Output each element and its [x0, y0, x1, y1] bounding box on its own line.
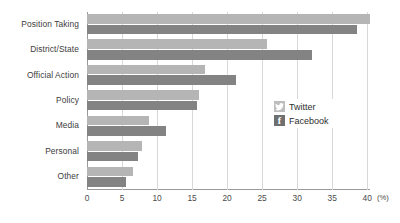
grouped-bar-chart: Position TakingDistrict/StateOfficial Ac… — [0, 0, 400, 223]
bar-facebook — [87, 75, 236, 85]
chart-legend: Twitter f Facebook — [272, 99, 333, 128]
tick-label-15: 15 — [187, 193, 196, 203]
facebook-f-icon: f — [274, 115, 285, 126]
category-label: Position Taking — [0, 19, 79, 29]
bar-twitter — [87, 141, 142, 151]
axis-unit-label: (%) — [377, 193, 389, 202]
bar-group — [87, 12, 370, 37]
category-label: Personal — [0, 146, 79, 156]
category-label: District/State — [0, 44, 79, 54]
category-label: Media — [0, 120, 79, 130]
tick-label-40: 40 — [363, 193, 372, 203]
bar-group — [87, 37, 370, 62]
legend-item-facebook: f Facebook — [274, 115, 329, 126]
bar-facebook — [87, 152, 138, 162]
bar-facebook — [87, 50, 312, 60]
bar-group — [87, 63, 370, 88]
tick-label-20: 20 — [222, 193, 231, 203]
bar-facebook — [87, 101, 197, 111]
tick-label-0: 0 — [85, 193, 90, 203]
tick-label-5: 5 — [120, 193, 125, 203]
category-axis-labels: Position TakingDistrict/StateOfficial Ac… — [0, 12, 83, 190]
bar-facebook — [87, 25, 357, 35]
category-label: Official Action — [0, 70, 79, 80]
bar-twitter — [87, 14, 370, 24]
legend-item-twitter: Twitter — [274, 101, 329, 112]
bar-twitter — [87, 167, 133, 177]
bar-twitter — [87, 65, 205, 75]
tick-label-25: 25 — [257, 193, 266, 203]
bar-twitter — [87, 116, 149, 126]
tick-label-30: 30 — [292, 193, 301, 203]
bar-facebook — [87, 126, 166, 136]
bar-twitter — [87, 39, 267, 49]
bar-facebook — [87, 177, 126, 187]
bar-group — [87, 165, 370, 190]
legend-label-facebook: Facebook — [289, 116, 329, 126]
bar-twitter — [87, 90, 199, 100]
legend-label-twitter: Twitter — [289, 102, 316, 112]
tick-label-35: 35 — [328, 193, 337, 203]
category-label: Policy — [0, 95, 79, 105]
bar-group — [87, 139, 370, 164]
category-label: Other — [0, 171, 79, 181]
tick-label-10: 10 — [152, 193, 161, 203]
twitter-bird-icon — [274, 101, 285, 112]
